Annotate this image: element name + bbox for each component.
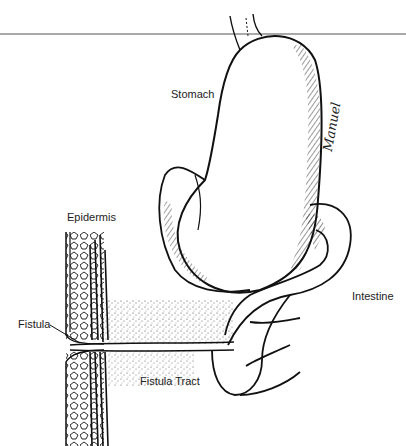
label-fistula: Fistula xyxy=(18,318,50,330)
fistula-illustration xyxy=(0,0,406,446)
label-epidermis: Epidermis xyxy=(67,211,116,223)
epidermis-lower xyxy=(66,350,108,446)
label-fistula-tract: Fistula Tract xyxy=(140,375,200,387)
stomach-shape xyxy=(159,36,321,293)
label-stomach: Stomach xyxy=(171,88,214,100)
label-intestine: Intestine xyxy=(352,290,394,302)
epidermis-upper xyxy=(66,232,108,344)
